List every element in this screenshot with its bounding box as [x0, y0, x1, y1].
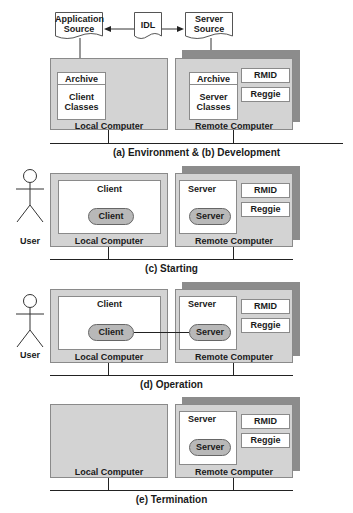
caption-e: (e) Termination	[50, 494, 293, 505]
user-stick-figure-icon	[14, 69, 46, 129]
client-archive-label: Archive	[57, 74, 106, 84]
network-line	[50, 143, 343, 144]
rmid-label: RMID	[241, 70, 290, 80]
caption-c: (c) Starting	[50, 263, 293, 274]
caption-d: (d) Operation	[50, 379, 293, 390]
user-stick-figure-icon	[14, 294, 46, 354]
network-line	[50, 259, 293, 260]
rmid-label: RMID	[241, 301, 290, 311]
server-process-label: Server	[189, 211, 231, 221]
reggie-label: Reggie	[241, 435, 290, 445]
network-line	[50, 375, 293, 376]
client-process-label: Client	[88, 211, 134, 221]
client-box-title: Client	[58, 184, 161, 194]
client-process-label: Client	[88, 327, 134, 337]
server-box-title: Server	[179, 299, 225, 309]
server-archive-label: Archive	[189, 74, 238, 84]
server-classes-line2: Classes	[189, 102, 238, 112]
client-box-title: Client	[58, 299, 161, 309]
client-classes-line2: Classes	[57, 102, 106, 112]
network-line	[50, 490, 293, 491]
server-process-label: Server	[189, 327, 231, 337]
caption-ab: (a) Environment & (b) Development	[50, 147, 343, 158]
rmid-label: RMID	[241, 185, 290, 195]
local-computer-label: Local Computer	[50, 121, 168, 131]
server-box-title: Server	[179, 414, 225, 424]
remote-computer-label: Remote Computer	[175, 121, 293, 131]
local-computer-label: Local Computer	[50, 467, 168, 477]
server-classes-line1: Server	[189, 92, 238, 102]
rmid-label: RMID	[241, 416, 290, 426]
reggie-label: Reggie	[241, 204, 290, 214]
reggie-label: Reggie	[241, 320, 290, 330]
server-box-title: Server	[179, 184, 225, 194]
remote-computer-label: Remote Computer	[175, 352, 293, 362]
client-classes-line1: Client	[57, 92, 106, 102]
remote-computer-label: Remote Computer	[175, 467, 293, 477]
reggie-label: Reggie	[241, 89, 290, 99]
local-computer-label: Local Computer	[50, 352, 168, 362]
remote-computer-label: Remote Computer	[175, 236, 293, 246]
local-computer-label: Local Computer	[50, 236, 168, 246]
user-label: User	[14, 350, 46, 360]
server-process-label: Server	[189, 442, 231, 452]
user-label: User	[14, 236, 46, 246]
client-server-connection	[134, 332, 189, 333]
